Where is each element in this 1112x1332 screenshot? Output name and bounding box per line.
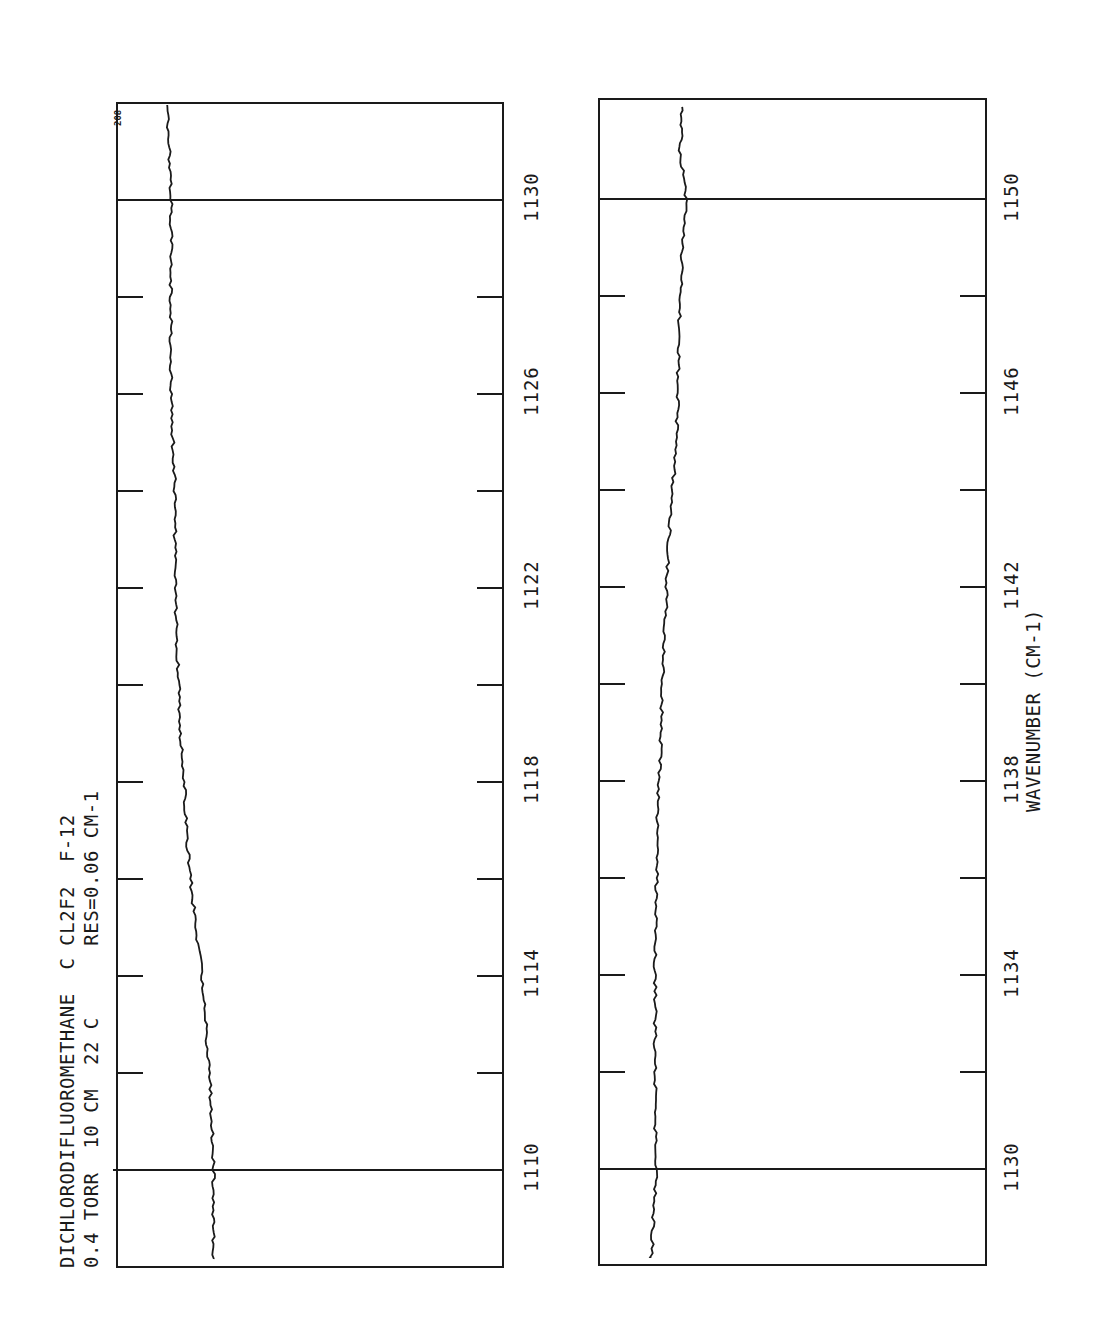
panel-2-tick-label: 1138 (1000, 754, 1022, 804)
panel-1 (113, 103, 503, 1267)
panel-2-tick-label: 1142 (1000, 560, 1022, 610)
panel-2 (599, 99, 986, 1265)
panel-1-tick-label: 1126 (520, 366, 542, 416)
panel-2-trace (650, 107, 688, 1257)
panel-1-tick-label: 1122 (520, 560, 542, 610)
panel-2-ticks (599, 296, 986, 1072)
panel-1-trace (167, 105, 215, 1259)
panel-2-tick-label: 1146 (1000, 366, 1022, 416)
panel-2-tick-label: 1150 (1000, 172, 1022, 222)
panel-1-tick-label: 1114 (520, 948, 542, 998)
panel-1-tick-label: 1130 (520, 172, 542, 222)
page-number: 208 (113, 110, 123, 126)
panel-1-ticks (117, 297, 503, 1073)
x-axis-title: WAVENUMBER (CM-1) (1022, 609, 1044, 812)
panel-1-tick-label: 1110 (520, 1142, 542, 1192)
spectrum-figure (0, 0, 1112, 1332)
header-line-2: 0.4 TORR 10 CM 22 C RES=0.06 CM-1 (80, 790, 102, 1268)
header-line-1: DICHLORODIFLUOROMETHANE C CL2F2 F-12 (56, 814, 78, 1268)
panel-2-tick-label: 1130 (1000, 1142, 1022, 1192)
panel-1-tick-label: 1118 (520, 754, 542, 804)
panel-1-frame (117, 103, 503, 1267)
panel-2-tick-label: 1134 (1000, 948, 1022, 998)
